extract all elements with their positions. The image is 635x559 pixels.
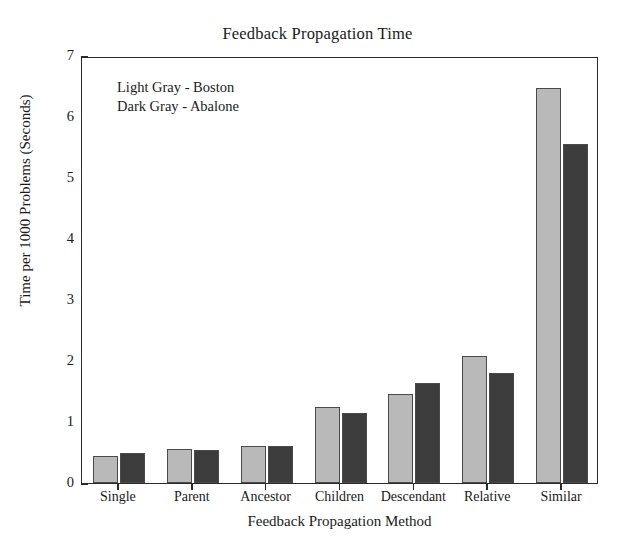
bar-similar-abalone [563, 144, 588, 483]
bar-parent-abalone [194, 450, 219, 483]
y-tick-label: 7 [34, 47, 74, 64]
y-tick-label: 3 [34, 291, 74, 308]
bar-similar-boston [536, 88, 561, 483]
x-axis-label: Feedback Propagation Method [81, 513, 598, 530]
y-axis-label: Time per 1000 Problems (Seconds) [17, 1, 34, 401]
legend-item-abalone: Dark Gray - Abalone [117, 97, 239, 116]
bar-children-boston [315, 407, 340, 483]
bar-relative-abalone [489, 373, 514, 483]
bar-ancestor-abalone [268, 446, 293, 483]
y-tick-label: 4 [34, 230, 74, 247]
bar-descendant-boston [388, 394, 413, 483]
bar-parent-boston [167, 449, 192, 483]
bar-single-boston [93, 456, 118, 483]
plot-area [81, 57, 598, 484]
legend: Light Gray - Boston Dark Gray - Abalone [117, 78, 239, 116]
y-tick-label: 1 [34, 413, 74, 430]
bar-ancestor-boston [241, 446, 266, 483]
legend-item-boston: Light Gray - Boston [117, 78, 239, 97]
bar-children-abalone [342, 413, 367, 483]
bar-descendant-abalone [415, 383, 440, 483]
y-tick-label: 2 [34, 352, 74, 369]
chart-figure: Feedback Propagation Time Time per 1000 … [0, 0, 635, 559]
bar-relative-boston [462, 356, 487, 483]
y-tick-label: 6 [34, 108, 74, 125]
y-tick-label: 5 [34, 169, 74, 186]
chart-title: Feedback Propagation Time [0, 24, 635, 44]
bar-single-abalone [120, 453, 145, 483]
x-tick-label-similar: Similar [501, 489, 621, 505]
